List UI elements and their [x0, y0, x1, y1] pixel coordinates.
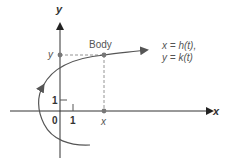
- x-value-label: x: [101, 117, 106, 127]
- curve-lower: [39, 86, 90, 145]
- body-label: Body: [89, 40, 112, 50]
- x-axis-label: x: [213, 106, 219, 117]
- parametric-curve-diagram: [0, 0, 228, 168]
- equation-x: x = h(t),: [162, 41, 196, 51]
- y-projection-point: [58, 53, 63, 58]
- x-tick-label: 1: [70, 116, 76, 126]
- y-tick-label: 1: [52, 96, 58, 106]
- y-axis-label: y: [56, 4, 62, 15]
- body-point: [102, 53, 107, 58]
- x-projection-point: [102, 109, 107, 114]
- equation-y: y = k(t): [162, 53, 193, 63]
- origin-label: 0: [52, 116, 58, 126]
- y-value-label: y: [48, 50, 53, 60]
